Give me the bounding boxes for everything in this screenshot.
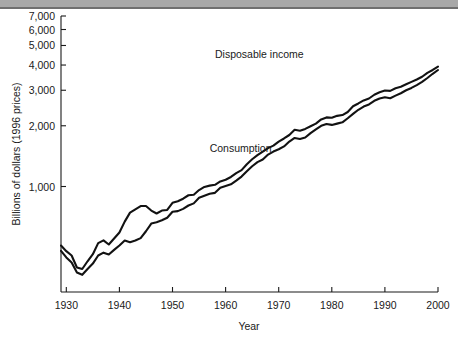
series-annotations: Disposable incomeConsumption <box>210 48 304 154</box>
x-axis-label: Year <box>238 320 260 332</box>
x-tick-label: 1930 <box>55 299 79 311</box>
x-tick-label: 2000 <box>426 299 450 311</box>
line-chart-plot: 1,0002,0003,0004,0005,0006,0007,000 1930… <box>0 0 458 343</box>
y-tick-label: 7,000 <box>29 10 55 22</box>
y-axis-label: Billions of dollars (1996 prices) <box>10 83 22 226</box>
x-tick-label: 1950 <box>161 299 185 311</box>
y-tick-label: 2,000 <box>29 120 55 132</box>
y-tick-label: 1,000 <box>29 181 55 193</box>
x-tick-label: 1980 <box>320 299 344 311</box>
chart-figure: 1,0002,0003,0004,0005,0006,0007,000 1930… <box>0 0 458 343</box>
y-axis-ticks: 1,0002,0003,0004,0005,0006,0007,000 <box>29 10 66 193</box>
series-label-disposable-income: Disposable income <box>215 48 304 60</box>
data-series-group <box>61 67 438 275</box>
y-tick-label: 4,000 <box>29 59 55 71</box>
x-axis-ticks: 19301940195019601970198019902000 <box>55 287 450 311</box>
x-tick-label: 1970 <box>267 299 291 311</box>
series-line-consumption <box>61 70 438 275</box>
x-tick-label: 1960 <box>214 299 238 311</box>
x-tick-label: 1990 <box>373 299 397 311</box>
x-tick-label: 1940 <box>108 299 132 311</box>
y-tick-label: 5,000 <box>29 39 55 51</box>
y-tick-label: 3,000 <box>29 84 55 96</box>
series-label-consumption: Consumption <box>210 142 272 154</box>
y-tick-label: 6,000 <box>29 24 55 36</box>
